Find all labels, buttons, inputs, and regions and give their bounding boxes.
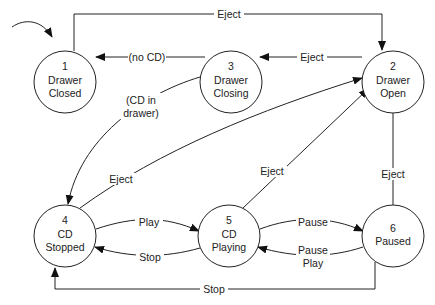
diagram-canvas: Eject Eject (no CD) (CD in drawer) Eject… [0,0,435,305]
state-4-line2: Stopped [45,241,84,253]
state-2-line1: Drawer [376,74,410,86]
state-3-line2: Closing [213,87,248,99]
state-6-number: 6 [390,222,396,234]
state-3-number: 3 [228,60,234,72]
label-4-to-5: Play [139,216,160,228]
state-6-line1: Paused [375,235,411,247]
edge-5-to-2 [243,89,368,208]
state-6: 6 Paused [362,205,424,267]
state-1-line2: Closed [49,87,82,99]
transition-labels: Eject Eject (no CD) (CD in drawer) Eject… [106,8,408,295]
label-5-to-4: Stop [139,251,161,263]
state-2-number: 2 [390,60,396,72]
label-3-to-4-line2: drawer) [123,107,159,119]
label-5-to-2: Eject [260,165,283,177]
label-5-to-6: Pause [298,216,328,228]
label-6-to-4: Stop [203,283,225,295]
label-6-to-5-line2: Play [303,257,324,269]
state-5-line2: Playing [212,241,247,253]
state-2: 2 Drawer Open [362,51,424,113]
state-1: 1 Drawer Closed [34,51,96,113]
label-2-to-3: Eject [300,51,323,63]
state-1-line1: Drawer [48,74,82,86]
state-2-line2: Open [380,87,406,99]
state-5-line1: CD [221,228,237,240]
state-4-number: 4 [62,214,68,226]
label-6-to-5-line1: Pause [298,244,328,256]
label-3-to-4-line1: (CD in [126,94,156,106]
label-4-to-2: Eject [109,173,132,185]
state-5: 5 CD Playing [198,205,260,267]
initial-arrow [12,22,52,37]
state-1-number: 1 [62,60,68,72]
state-4: 4 CD Stopped [34,205,96,267]
state-4-line1: CD [57,228,73,240]
state-diagram: Eject Eject (no CD) (CD in drawer) Eject… [0,0,435,305]
label-1-to-2: Eject [217,8,240,20]
state-3: 3 Drawer Closing [200,51,262,113]
state-5-number: 5 [226,214,232,226]
state-3-line1: Drawer [214,74,248,86]
label-3-to-1: (no CD) [129,51,166,63]
label-6-to-2: Eject [381,168,404,180]
